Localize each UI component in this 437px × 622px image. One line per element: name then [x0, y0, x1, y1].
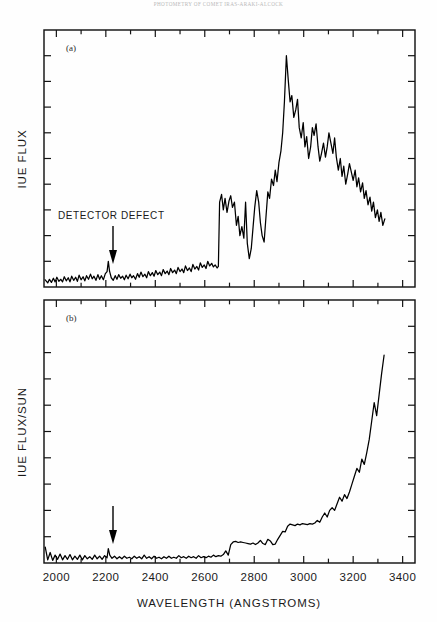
panel-b-frame [44, 300, 415, 563]
xaxis-tick-label: 3200 [340, 571, 367, 583]
panel-a-ticks [44, 30, 415, 287]
panel-a-frame [44, 30, 415, 287]
xaxis-tick-label: 2200 [92, 571, 119, 583]
xaxis-tick-labels: 20002200240026002800300032003400 [43, 571, 416, 583]
detector-defect-arrow [109, 226, 117, 264]
panel-b-ticks [44, 300, 415, 563]
panel-b-yaxis-title: IUE FLUX/SUN [16, 387, 28, 477]
xaxis-title: WAVELENGTH (ANGSTROMS) [137, 597, 321, 609]
spectrum-figure: (a) IUE FLUX DETECTOR DEFECT (b) IUE FLU… [0, 0, 437, 622]
panel-b-defect-arrow [109, 506, 117, 544]
xaxis-tick-label: 2000 [43, 571, 70, 583]
xaxis-tick-label: 2800 [241, 571, 268, 583]
xaxis-tick-label: 2400 [142, 571, 169, 583]
panel-a-spectrum-curve [45, 56, 385, 283]
detector-defect-label: DETECTOR DEFECT [58, 210, 165, 221]
panel-b: (b) IUE FLUX/SUN 20002200240026002800300… [16, 300, 416, 609]
figure-root: PHOTOMETRY OF COMET IRAS-ARAKI-ALCOCK (a… [0, 0, 437, 622]
xaxis-tick-label: 3400 [389, 571, 416, 583]
panel-a-yaxis-title: IUE FLUX [16, 130, 28, 189]
panel-b-spectrum-curve [45, 355, 384, 560]
xaxis-tick-label: 3000 [290, 571, 317, 583]
panel-a: (a) IUE FLUX DETECTOR DEFECT [16, 30, 415, 287]
xaxis-tick-label: 2600 [191, 571, 218, 583]
panel-b-label: (b) [66, 313, 77, 323]
panel-a-label: (a) [66, 43, 76, 53]
